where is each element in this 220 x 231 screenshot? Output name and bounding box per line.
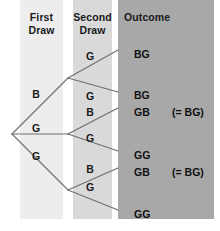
column-header-second-draw: Second Draw <box>73 11 112 36</box>
outcome-note-3: (= BG) <box>172 107 204 118</box>
second-draw-label-6: G <box>83 182 97 193</box>
outcome-label-1: BG <box>134 49 150 60</box>
outcome-label-5: GB <box>134 167 150 178</box>
column-header-outcome: Outcome <box>124 11 210 24</box>
outcome-label-4: GG <box>134 150 150 161</box>
outcome-label-6: GG <box>134 209 150 220</box>
second-draw-label-1: G <box>83 51 97 62</box>
first-draw-label-g1: G <box>29 123 43 134</box>
second-draw-label-4: G <box>83 133 97 144</box>
probability-tree-figure: First Draw Second Draw Outcome B G G G G… <box>0 0 220 231</box>
second-draw-label-2: G <box>83 91 97 102</box>
first-draw-label-b: B <box>29 89 43 100</box>
second-draw-label-3: B <box>83 107 97 118</box>
column-header-first-draw: First Draw <box>20 11 63 36</box>
branch-g2-to-g-leaf6 <box>68 190 118 210</box>
outcome-label-2: BG <box>134 90 150 101</box>
outcome-note-5: (= BG) <box>172 167 204 178</box>
branch-root-to-g2 <box>12 134 68 190</box>
first-draw-label-g2: G <box>29 151 43 162</box>
second-draw-label-5: B <box>83 164 97 175</box>
outcome-label-3: GB <box>134 107 150 118</box>
